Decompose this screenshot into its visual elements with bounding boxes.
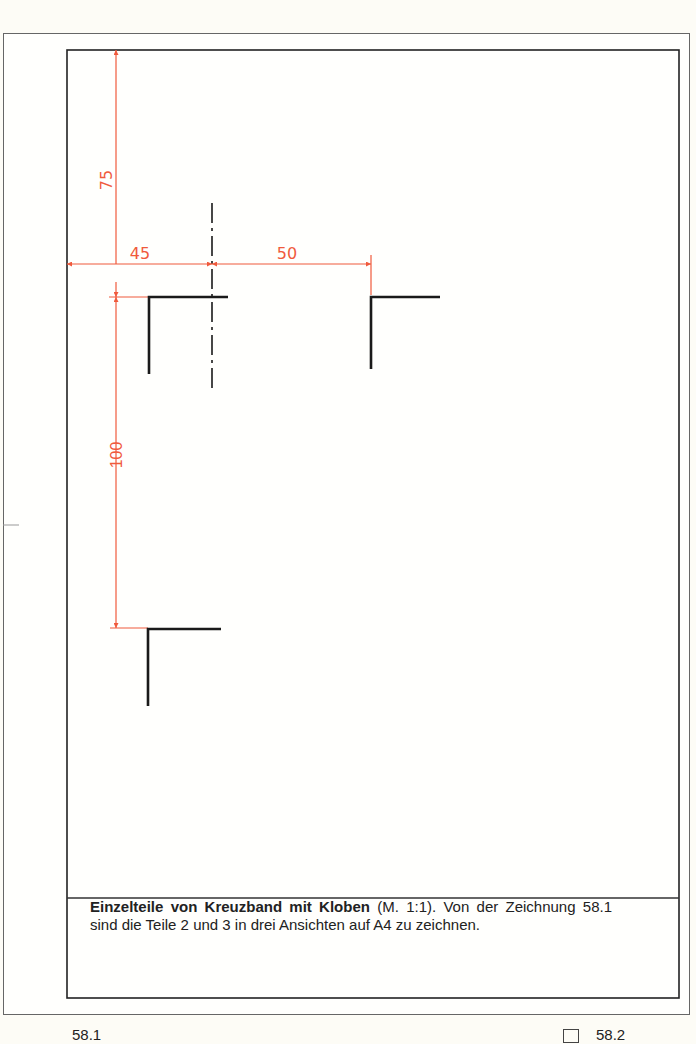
figure-caption: Einzelteile von Kreuzband mit Kloben (M.… (90, 898, 626, 934)
drawing-border (67, 50, 679, 998)
figure-number-right: 58.2 (596, 1026, 625, 1044)
dimension-50: 50 (212, 244, 371, 295)
view-corner-side (371, 297, 440, 369)
figure-number-left: 58.1 (72, 1026, 101, 1044)
caption-title: Einzelteile von Kreuzband mit Kloben (90, 898, 370, 915)
dimension-45: 45 (67, 244, 212, 264)
dimension-label-100: 100 (108, 442, 125, 469)
dimension-label-50: 50 (277, 244, 297, 263)
square-icon (563, 1029, 579, 1043)
dimension-label-75: 75 (97, 170, 116, 190)
view-corner-top (148, 629, 221, 706)
view-corner-front (149, 297, 228, 374)
dimension-label-45: 45 (130, 244, 150, 263)
dimension-100: 100 (108, 282, 148, 628)
dimension-75: 75 (97, 50, 116, 264)
